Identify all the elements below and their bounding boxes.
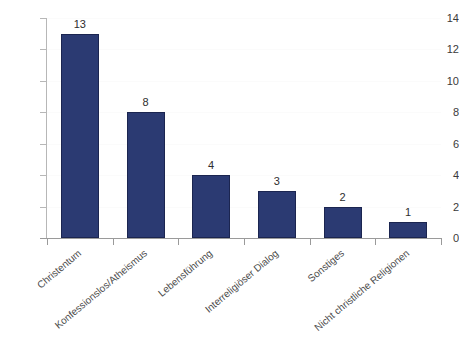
bar-value-label: 3 (274, 176, 280, 187)
bar-value-label: 8 (142, 97, 148, 108)
bar (192, 175, 230, 238)
bar-value-label: 13 (74, 19, 86, 30)
x-axis-tick (310, 239, 311, 245)
bar-value-label: 1 (405, 207, 411, 218)
x-axis-tick (178, 239, 179, 245)
y-axis-line (46, 18, 47, 239)
y-axis-tick-label: 12 (433, 44, 459, 55)
x-axis-tick (441, 239, 442, 245)
x-axis-tick (47, 239, 48, 245)
y-axis-tick (40, 49, 46, 50)
plot-area (47, 18, 441, 238)
y-axis-tick-label: 6 (433, 138, 459, 149)
bar (324, 207, 362, 238)
bar-chart: 02468101214 1384321 ChristentumKonfessio… (0, 0, 459, 355)
x-axis-tick (244, 239, 245, 245)
bar (389, 222, 427, 238)
y-axis-tick-label: 2 (433, 201, 459, 212)
bar-value-label: 2 (339, 192, 345, 203)
gridline (47, 144, 441, 145)
gridline (47, 81, 441, 82)
bar (61, 34, 99, 238)
y-axis-tick-label: 10 (433, 75, 459, 86)
gridline (47, 175, 441, 176)
x-axis-category-label: Sonstiges (217, 248, 346, 355)
y-axis-tick (40, 207, 46, 208)
x-axis-tick (113, 239, 114, 245)
gridline (47, 207, 441, 208)
x-axis-category-label: Lebensführung (85, 248, 214, 355)
gridline (47, 18, 441, 19)
x-axis-category-label: Konfessionslos/Atheismus (20, 248, 149, 355)
y-axis-tick-label: 4 (433, 170, 459, 181)
gridline (47, 112, 441, 113)
y-axis-tick (40, 112, 46, 113)
x-axis-line (40, 238, 442, 239)
bar-value-label: 4 (208, 160, 214, 171)
gridline (47, 49, 441, 50)
y-axis-tick (40, 81, 46, 82)
x-axis-category-label: Interreligiöser Dialog (151, 248, 280, 355)
y-axis-tick (40, 175, 46, 176)
y-axis-tick-label: 8 (433, 107, 459, 118)
bar (258, 191, 296, 238)
x-axis-category-label: Nicht christliche Religionen (282, 248, 411, 355)
y-axis-tick (40, 144, 46, 145)
bar (127, 112, 165, 238)
y-axis-tick-label: 14 (433, 13, 459, 24)
x-axis-tick (375, 239, 376, 245)
y-axis-tick (40, 18, 46, 19)
